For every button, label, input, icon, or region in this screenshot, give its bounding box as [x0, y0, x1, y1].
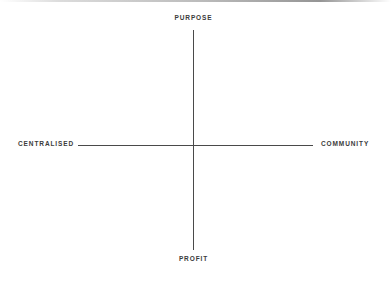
axis-label-right-community: COMMUNITY [321, 141, 369, 148]
axis-label-left-centralised: CENTRALISED [18, 141, 74, 148]
scan-edge-top [0, 0, 391, 2]
horizontal-axis-line [78, 145, 313, 146]
axis-label-bottom-profit: PROFIT [0, 256, 387, 263]
quadrant-diagram: PURPOSE PROFIT CENTRALISED COMMUNITY [0, 0, 391, 282]
vertical-axis-line [193, 30, 194, 250]
axis-label-top-purpose: PURPOSE [0, 15, 387, 22]
